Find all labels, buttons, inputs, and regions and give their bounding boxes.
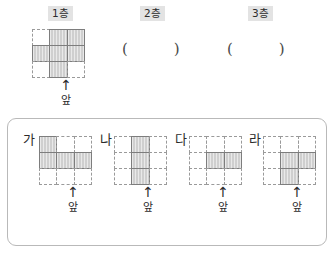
front-marker-option-da: ↑ 앞 bbox=[209, 185, 237, 214]
option-ga-cell-r2c0 bbox=[39, 168, 58, 185]
up-arrow-icon: ↑ bbox=[209, 185, 237, 200]
paren-close: ) bbox=[174, 40, 180, 58]
floor-1-figure-grid bbox=[32, 29, 85, 77]
option-da-grid[interactable] bbox=[189, 136, 242, 184]
front-label: 앞 bbox=[52, 94, 80, 107]
option-na-cell-r2c2 bbox=[149, 168, 168, 185]
up-arrow-icon: ↑ bbox=[52, 78, 80, 93]
floor-1-cell-r1c1 bbox=[49, 45, 68, 62]
up-arrow-icon: ↑ bbox=[59, 185, 87, 200]
front-marker-option-ra: ↑ 앞 bbox=[283, 185, 311, 214]
option-na-cell-r1c1 bbox=[131, 152, 150, 169]
option-ra-cell-r2c1 bbox=[280, 168, 299, 185]
option-da-cell-r0c0 bbox=[189, 136, 208, 153]
option-da-cell-r0c2 bbox=[224, 136, 243, 153]
option-ra-cell-r0c0 bbox=[263, 136, 282, 153]
answer-blank-floor-2[interactable]: () bbox=[122, 42, 180, 57]
option-da-cell-r1c2 bbox=[224, 152, 243, 169]
option-ra-cell-r1c0 bbox=[263, 152, 282, 169]
front-label: 앞 bbox=[209, 201, 237, 214]
option-da-cell-r2c1 bbox=[206, 168, 225, 185]
option-ra-grid[interactable] bbox=[263, 136, 316, 184]
option-ra-cell-r0c2 bbox=[298, 136, 317, 153]
front-label: 앞 bbox=[59, 201, 87, 214]
option-na-cell-r0c0 bbox=[114, 136, 133, 153]
floor-label-2: 2층 bbox=[140, 6, 165, 21]
option-da-cell-r0c1 bbox=[206, 136, 225, 153]
front-label: 앞 bbox=[134, 201, 162, 214]
option-label-da: 다 bbox=[175, 133, 187, 147]
option-ra-cell-r1c2 bbox=[298, 152, 317, 169]
paren-open: ( bbox=[122, 40, 128, 58]
option-na-cell-r2c0 bbox=[114, 168, 133, 185]
option-da-cell-r1c1 bbox=[206, 152, 225, 169]
option-da-cell-r2c0 bbox=[189, 168, 208, 185]
floor-1-cell-r2c2 bbox=[67, 61, 86, 78]
option-na-cell-r1c0 bbox=[114, 152, 133, 169]
floor-label-1: 1층 bbox=[48, 6, 73, 21]
floor-1-cell-r2c0 bbox=[32, 61, 51, 78]
floor-1-cell-r0c2 bbox=[67, 29, 86, 46]
option-ga-cell-r2c2 bbox=[74, 168, 93, 185]
option-ra-cell-r2c0 bbox=[263, 168, 282, 185]
answer-blank-floor-3[interactable]: () bbox=[227, 42, 285, 57]
option-ga-cell-r0c1 bbox=[56, 136, 75, 153]
front-marker-option-ga: ↑ 앞 bbox=[59, 185, 87, 214]
paren-open: ( bbox=[227, 40, 233, 58]
option-ga-cell-r1c1 bbox=[56, 152, 75, 169]
option-na-grid[interactable] bbox=[114, 136, 167, 184]
option-na-cell-r2c1 bbox=[131, 168, 150, 185]
floor-1-cell-r1c2 bbox=[67, 45, 86, 62]
option-na-cell-r1c2 bbox=[149, 152, 168, 169]
option-na-cell-r0c1 bbox=[131, 136, 150, 153]
options-panel: 가 ↑ 앞 나 ↑ 앞 다 ↑ 앞 라 ↑ 앞 bbox=[7, 118, 327, 246]
option-ra-cell-r1c1 bbox=[280, 152, 299, 169]
up-arrow-icon: ↑ bbox=[134, 185, 162, 200]
option-label-na: 나 bbox=[100, 133, 112, 147]
option-da-cell-r1c0 bbox=[189, 152, 208, 169]
floor-1-cell-r0c0 bbox=[32, 29, 51, 46]
option-ga-cell-r2c1 bbox=[56, 168, 75, 185]
front-label: 앞 bbox=[283, 201, 311, 214]
option-label-ra: 라 bbox=[249, 133, 261, 147]
paren-close: ) bbox=[279, 40, 285, 58]
option-da-cell-r2c2 bbox=[224, 168, 243, 185]
option-ga-cell-r0c2 bbox=[74, 136, 93, 153]
floor-1-cell-r2c1 bbox=[49, 61, 68, 78]
front-marker-floor-1: ↑ 앞 bbox=[52, 78, 80, 107]
option-ra-cell-r0c1 bbox=[280, 136, 299, 153]
front-marker-option-na: ↑ 앞 bbox=[134, 185, 162, 214]
option-ra-cell-r2c2 bbox=[298, 168, 317, 185]
option-ga-cell-r1c2 bbox=[74, 152, 93, 169]
floor-1-cell-r0c1 bbox=[49, 29, 68, 46]
floor-label-3: 3층 bbox=[248, 6, 273, 21]
option-na-cell-r0c2 bbox=[149, 136, 168, 153]
option-label-ga: 가 bbox=[23, 133, 35, 147]
option-ga-cell-r1c0 bbox=[39, 152, 58, 169]
floor-1-cell-r1c0 bbox=[32, 45, 51, 62]
up-arrow-icon: ↑ bbox=[283, 185, 311, 200]
option-ga-grid[interactable] bbox=[39, 136, 92, 184]
option-ga-cell-r0c0 bbox=[39, 136, 58, 153]
